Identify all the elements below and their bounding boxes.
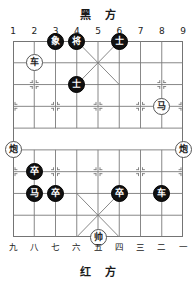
file-label-bottom-9: 一 xyxy=(176,240,190,252)
black-pawn-2[interactable]: 卒 xyxy=(47,185,64,202)
red-horse[interactable]: 马 xyxy=(153,98,170,115)
board-grid xyxy=(13,41,183,237)
red-side-title: 红 方 xyxy=(0,263,196,279)
black-advisor-1[interactable]: 士 xyxy=(111,33,128,50)
game-board[interactable]: 象将士车士马炮炮卒马卒卒车帅 xyxy=(13,41,183,237)
file-label-bottom-5: 五 xyxy=(91,240,105,252)
file-label-top-2: 2 xyxy=(27,26,41,36)
file-label-bottom-7: 三 xyxy=(134,240,148,252)
black-pawn-3[interactable]: 卒 xyxy=(111,185,128,202)
black-side-title: 黑 方 xyxy=(0,6,196,22)
black-horse[interactable]: 马 xyxy=(26,185,43,202)
file-label-bottom-2: 八 xyxy=(27,240,41,252)
red-cannon-left[interactable]: 炮 xyxy=(5,141,22,158)
file-labels-top: 123456789 xyxy=(0,26,196,38)
file-label-bottom-3: 七 xyxy=(49,240,63,252)
black-pawn-1[interactable]: 卒 xyxy=(26,163,43,180)
file-label-bottom-6: 四 xyxy=(112,240,126,252)
black-general[interactable]: 将 xyxy=(68,33,85,50)
file-label-top-8: 8 xyxy=(155,26,169,36)
file-label-bottom-4: 六 xyxy=(70,240,84,252)
file-label-bottom-8: 二 xyxy=(155,240,169,252)
file-label-bottom-1: 九 xyxy=(6,240,20,252)
red-cannon-right[interactable]: 炮 xyxy=(175,141,192,158)
xiangqi-board-app: 黑 方 123456789 象将士车士马炮炮卒马卒卒车帅 九八七六五四三二一 红… xyxy=(0,0,196,283)
file-label-top-1: 1 xyxy=(6,26,20,36)
file-label-top-9: 9 xyxy=(176,26,190,36)
black-elephant[interactable]: 象 xyxy=(47,33,64,50)
red-chariot-1[interactable]: 车 xyxy=(26,54,43,71)
file-label-top-5: 5 xyxy=(91,26,105,36)
file-labels-bottom: 九八七六五四三二一 xyxy=(0,240,196,252)
file-label-top-7: 7 xyxy=(134,26,148,36)
